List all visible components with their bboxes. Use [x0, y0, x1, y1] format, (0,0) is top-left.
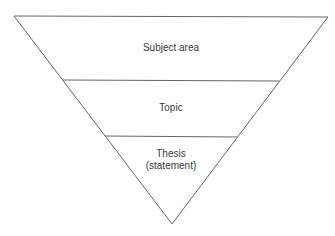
level-subject-area: Subject area: [121, 42, 221, 54]
level-thesis-line1: Thesis: [121, 148, 221, 160]
level-thesis-line2: (statement): [121, 160, 221, 172]
level-topic: Topic: [121, 102, 221, 114]
divider-topic-thesis: [105, 136, 237, 137]
divider-subject-topic: [63, 80, 279, 81]
level-thesis: Thesis (statement): [121, 148, 221, 172]
inverted-pyramid-diagram: [0, 0, 335, 236]
